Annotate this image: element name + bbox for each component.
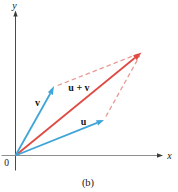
figure-caption: (b) [82,177,95,189]
parallelogram-dashed-right-side [106,56,140,117]
vector-u-shaft [16,123,98,156]
x-axis-label: x [166,150,172,161]
vector-u-label: u [81,116,87,127]
vector-u-arrowhead-icon [96,120,104,125]
vector-sum-shaft [16,58,136,156]
figure-canvas: y x 0 v u u + v (b) [0,0,178,192]
vector-sum-label: u + v [68,82,89,93]
origin-label: 0 [4,158,9,168]
y-axis-arrowhead-icon [13,11,17,17]
vector-v-label: v [35,97,40,108]
vector-v-shaft [16,94,51,156]
x-axis-arrowhead-icon [157,153,163,157]
vector-v-arrowhead-icon [48,86,54,95]
y-axis-label: y [11,0,17,11]
vector-addition-figure: y x 0 v u u + v (b) [0,0,178,192]
